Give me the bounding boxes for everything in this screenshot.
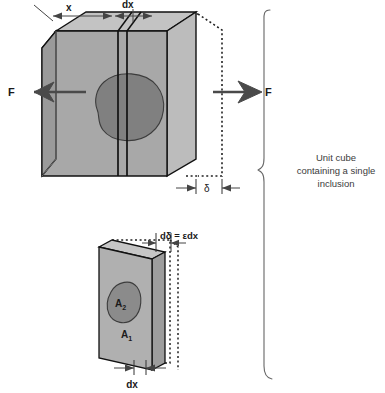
caption-line-1: Unit cube	[316, 152, 356, 163]
diagram-canvas: F F x dx	[0, 0, 385, 393]
dimension-x-label: x	[66, 2, 72, 13]
cube-left-face	[42, 31, 56, 176]
unit-cube-group: F F x dx	[8, 0, 272, 194]
force-label-left: F	[8, 86, 15, 98]
dimension-dx-cube-label: dx	[122, 0, 134, 10]
dimension-dx-slab-label: dx	[126, 379, 138, 390]
cube-right-face	[167, 12, 196, 176]
inclusion-blob	[96, 74, 164, 141]
caption-line-3: inclusion	[318, 178, 355, 189]
extension-label: dδ = εdx	[160, 230, 199, 241]
caption-line-2: containing a single	[297, 165, 376, 176]
dimension-delta-label: δ	[204, 183, 210, 194]
force-label-right: F	[265, 86, 272, 98]
slab-element-group: A2 A1 dδ = εdx	[99, 230, 199, 390]
figure-root: F F x dx	[0, 0, 385, 393]
slab-side-face	[152, 252, 165, 370]
force-arrow-right	[213, 81, 262, 103]
caption-brace-group	[258, 10, 272, 379]
curly-brace	[258, 10, 272, 379]
